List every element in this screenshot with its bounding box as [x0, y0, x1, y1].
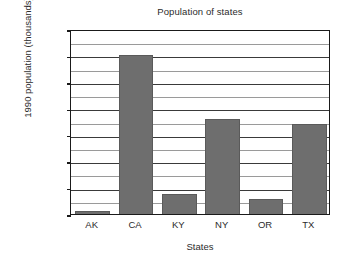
- bar-ca: [119, 55, 154, 214]
- bar-ak: [75, 211, 110, 214]
- bar-tx: [292, 124, 327, 214]
- gridline-minor: [71, 97, 329, 98]
- plot-area: 05000100001500020000250003000035000: [70, 30, 330, 215]
- gridline-major: [71, 137, 329, 138]
- bar-or: [249, 199, 284, 214]
- y-axis-title: 1990 population (thousands): [22, 0, 33, 153]
- gridline-minor: [71, 176, 329, 177]
- bar-ky: [162, 194, 197, 214]
- plot-inner: [71, 31, 329, 214]
- y-axis-tick-mark: [67, 57, 71, 58]
- bar-ny: [205, 119, 240, 214]
- y-axis-tick-mark: [67, 162, 71, 163]
- gridline-minor: [71, 44, 329, 45]
- y-axis-tick-mark: [67, 110, 71, 111]
- x-axis-tick-label-or: OR: [258, 219, 272, 230]
- gridline-major: [71, 110, 329, 111]
- gridline-major: [71, 57, 329, 58]
- x-axis-tick-label-ak: AK: [85, 219, 98, 230]
- gridline-major: [71, 84, 329, 85]
- chart-title: Population of states: [70, 6, 330, 17]
- gridline-major: [71, 190, 329, 191]
- x-axis-tick-label-ky: KY: [172, 219, 185, 230]
- x-axis-tick-label-ca: CA: [128, 219, 141, 230]
- gridline-minor: [71, 124, 329, 125]
- x-axis-tick-label-tx: TX: [302, 219, 314, 230]
- gridline-minor: [71, 150, 329, 151]
- y-axis-tick-mark: [67, 189, 71, 190]
- bar-chart-figure: Population of states 1990 population (th…: [0, 0, 352, 261]
- x-axis-tick-label-ny: NY: [215, 219, 228, 230]
- y-axis-tick-mark: [67, 30, 71, 31]
- y-axis-tick-mark: [67, 215, 71, 216]
- gridline-minor: [71, 203, 329, 204]
- y-axis-tick-mark: [67, 136, 71, 137]
- x-axis-title: States: [70, 241, 330, 252]
- gridline-minor: [71, 71, 329, 72]
- gridline-major: [71, 163, 329, 164]
- y-axis-tick-mark: [67, 83, 71, 84]
